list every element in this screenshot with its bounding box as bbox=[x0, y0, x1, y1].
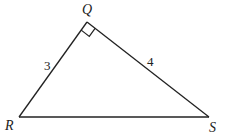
vertex-label-s: S bbox=[209, 120, 216, 135]
vertex-label-q: Q bbox=[82, 2, 92, 17]
right-angle-marker-icon bbox=[81, 28, 95, 36]
side-label-qs: 4 bbox=[147, 54, 154, 69]
side-qr bbox=[19, 22, 87, 117]
triangle-diagram: Q R S 3 4 bbox=[0, 0, 229, 136]
side-qs bbox=[87, 22, 209, 117]
vertex-label-r: R bbox=[4, 118, 14, 133]
side-label-qr: 3 bbox=[44, 58, 51, 73]
